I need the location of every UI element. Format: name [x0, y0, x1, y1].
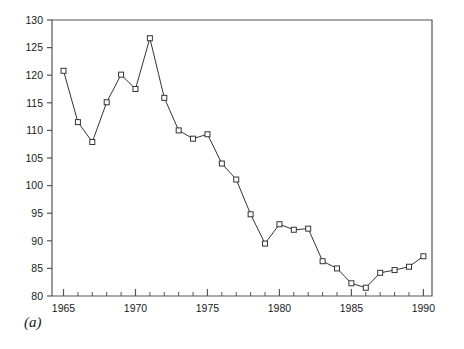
y-tick-label: 125 [25, 41, 43, 53]
axis-frame-path [52, 20, 432, 296]
y-tick-label: 105 [25, 152, 43, 164]
data-point-marker [176, 128, 181, 133]
data-point-marker [378, 270, 383, 275]
data-point-marker [421, 254, 426, 259]
data-point-marker [349, 281, 354, 286]
y-axis: 80859095100105110115120125130 [25, 14, 52, 302]
data-point-marker [306, 226, 311, 231]
data-point-marker [205, 132, 210, 137]
data-point-marker [162, 95, 167, 100]
panel-label: (a) [24, 314, 42, 331]
data-point-marker [335, 266, 340, 271]
data-point-marker [263, 241, 268, 246]
y-tick-label: 85 [31, 262, 43, 274]
data-point-marker [291, 227, 296, 232]
x-tick-label: 1970 [124, 302, 148, 314]
figure-panel: 8085909510010511011512012513019651970197… [0, 0, 464, 349]
data-point-marker [119, 72, 124, 77]
x-tick-label: 1975 [196, 302, 220, 314]
y-tick-label: 90 [31, 235, 43, 247]
x-tick-label: 1985 [340, 302, 364, 314]
y-tick-label: 80 [31, 290, 43, 302]
data-point-marker [90, 139, 95, 144]
x-axis: 196519701975198019851990 [52, 289, 435, 314]
data-point-marker [219, 161, 224, 166]
plot-frame [52, 20, 432, 296]
data-point-marker [363, 285, 368, 290]
data-point-marker [277, 222, 282, 227]
y-tick-label: 120 [25, 69, 43, 81]
x-tick-label: 1990 [412, 302, 436, 314]
data-point-marker [61, 68, 66, 73]
data-point-marker [392, 268, 397, 273]
data-markers [61, 36, 426, 291]
data-point-marker [234, 177, 239, 182]
y-tick-label: 115 [26, 97, 43, 109]
data-point-marker [191, 136, 196, 141]
data-point-marker [133, 87, 138, 92]
y-tick-label: 100 [25, 179, 43, 191]
data-point-marker [406, 264, 411, 269]
data-point-marker [248, 212, 253, 217]
data-line [64, 38, 424, 288]
x-tick-label: 1980 [268, 302, 292, 314]
x-tick-label: 1965 [52, 302, 76, 314]
y-tick-label: 110 [26, 124, 43, 136]
y-tick-label: 130 [25, 14, 43, 26]
y-tick-label: 95 [31, 207, 43, 219]
data-point-marker [147, 36, 152, 41]
data-point-marker [75, 120, 80, 125]
data-point-marker [104, 100, 109, 105]
data-point-marker [320, 259, 325, 264]
line-chart: 8085909510010511011512012513019651970197… [0, 0, 464, 349]
